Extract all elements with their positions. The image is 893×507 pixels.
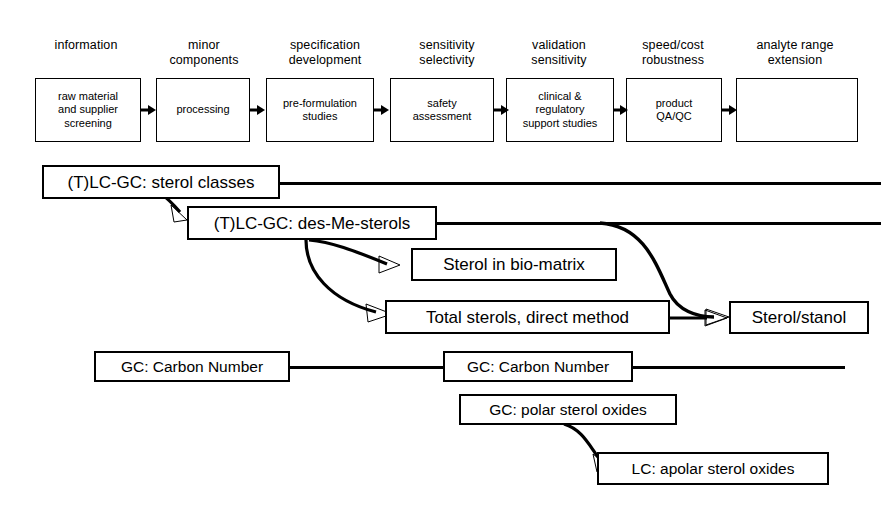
arrow-total-sterols-to-sterol-stanol [667, 309, 729, 327]
diagram-canvas: information minor components specificati… [0, 0, 893, 507]
method-box-des-me-sterols[interactable]: (T)LC-GC: des-Me-sterols [187, 206, 437, 240]
pipeline-arrow-6 [722, 104, 738, 116]
pipeline-box-clinical-regulatory[interactable]: clinical & regulatory support studies [506, 78, 614, 142]
method-box-total-sterols-direct[interactable]: Total sterols, direct method [385, 300, 670, 334]
pipeline-arrow-5 [613, 104, 629, 116]
method-box-sterol-in-bio-matrix[interactable]: Sterol in bio-matrix [411, 248, 617, 281]
connector-line-gc1-to-gc2 [288, 366, 445, 369]
pipeline-arrow-3 [374, 104, 390, 116]
stage-header-minor-components: minor components [152, 38, 256, 68]
stage-header-validation-sensitivity: validation sensitivity [505, 38, 613, 68]
pipeline-box-analyte-range-extension[interactable] [736, 78, 858, 142]
method-box-gc-polar-sterol-oxides[interactable]: GC: polar sterol oxides [459, 394, 677, 425]
method-box-lc-apolar-sterol-oxides[interactable]: LC: apolar sterol oxides [597, 452, 829, 485]
pipeline-box-processing[interactable]: processing [156, 78, 250, 142]
stage-header-information: information [31, 38, 141, 53]
pipeline-arrow-2 [250, 104, 266, 116]
method-box-gc-carbon-number-2[interactable]: GC: Carbon Number [443, 351, 633, 382]
stage-header-sensitivity-selectivity: sensitivity selectivity [392, 38, 502, 68]
stage-header-specification-development: specification development [266, 38, 384, 68]
pipeline-arrow-1 [141, 104, 157, 116]
pipeline-arrow-4 [494, 104, 510, 116]
method-box-sterol-stanol[interactable]: Sterol/stanol [729, 301, 869, 334]
connector-line-sterol-classes-right [279, 182, 881, 185]
stage-header-speed-cost-robustness: speed/cost robustness [618, 38, 728, 68]
pipeline-box-raw-material[interactable]: raw material and supplier screening [35, 78, 141, 142]
method-box-sterol-classes[interactable]: (T)LC-GC: sterol classes [42, 165, 280, 199]
connector-line-gc2-right [631, 366, 845, 369]
method-box-gc-carbon-number-1[interactable]: GC: Carbon Number [94, 351, 290, 382]
stage-header-analyte-range-extension: analyte range extension [731, 38, 859, 68]
pipeline-box-safety-assessment[interactable]: safety assessment [390, 78, 494, 142]
pipeline-box-product-qa-qc[interactable]: product QA/QC [626, 78, 722, 142]
pipeline-box-pre-formulation-studies[interactable]: pre-formulation studies [266, 78, 374, 142]
